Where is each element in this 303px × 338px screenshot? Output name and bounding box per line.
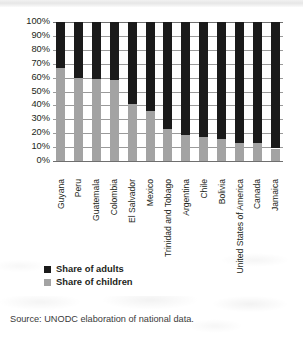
plot-area [53, 22, 283, 161]
y-axis-tick: 90% [31, 31, 50, 40]
bar-segment-share-of-children [146, 111, 155, 161]
bar-segment-share-of-adults [92, 22, 101, 79]
y-axis-tick: 0% [37, 156, 50, 165]
x-axis-category-label: Colombia [110, 179, 119, 257]
bar-segment-share-of-adults [146, 22, 155, 111]
x-axis-category-label-text: Guatemala [92, 179, 101, 221]
x-axis-category-label-text: Chile [199, 179, 208, 199]
bar-column [92, 22, 101, 161]
bar-column [217, 22, 226, 161]
bar-segment-share-of-adults [110, 22, 119, 80]
stacked-bar-chart-figure: 0%10%20%30%40%50%60%70%80%90%100% Guyana… [0, 0, 303, 338]
bar-segment-share-of-adults [56, 22, 65, 68]
x-axis-category-label-text: Bolivia [217, 179, 226, 204]
x-axis-category-label: Canada [253, 179, 262, 257]
chart-plot-wrapper: 0%10%20%30%40%50%60%70%80%90%100% [0, 22, 303, 177]
x-axis-category-label-text: Colombia [110, 179, 119, 215]
bar-segment-share-of-children [92, 79, 101, 161]
x-axis-category-label: United States of America [235, 179, 244, 257]
y-axis-tick-labels: 0%10%20%30%40%50%60%70%80%90%100% [16, 22, 50, 161]
bar-segment-share-of-adults [199, 22, 208, 137]
x-axis-category-label: Guyana [56, 179, 65, 257]
bar-segment-share-of-adults [271, 22, 280, 148]
y-axis-tick: 40% [31, 101, 50, 110]
x-axis-category-label: Guatemala [92, 179, 101, 257]
bar-segment-share-of-children [253, 143, 262, 161]
bar-column [253, 22, 262, 161]
x-axis-category-label-text: Argentina [182, 179, 191, 216]
x-axis-category-label: Bolivia [217, 179, 226, 257]
bar-segment-share-of-adults [235, 22, 244, 143]
x-axis-category-label-text: El Salvador [128, 179, 137, 223]
bar-column [74, 22, 83, 161]
y-axis-tick: 60% [31, 73, 50, 82]
y-axis-tick: 30% [31, 115, 50, 124]
bar-segment-share-of-children [199, 137, 208, 161]
x-axis-category-label-text: Guyana [56, 179, 65, 209]
bar-column [110, 22, 119, 161]
bar-column [235, 22, 244, 161]
bar-segment-share-of-adults [217, 22, 226, 139]
x-axis-category-label: Peru [74, 179, 83, 257]
x-axis-category-label: Chile [199, 179, 208, 257]
x-axis-category-label-text: Trinidad and Tobago [164, 179, 173, 257]
bar-segment-share-of-children [56, 68, 65, 161]
legend-color-swatch [44, 266, 51, 273]
gridline [53, 161, 283, 162]
legend-item: Share of children [44, 277, 224, 287]
y-axis-tick: 80% [31, 45, 50, 54]
bar-segment-share-of-children [74, 78, 83, 161]
legend-item-label: Share of children [56, 277, 133, 287]
bar-segment-share-of-children [163, 129, 172, 161]
bar-segment-share-of-children [110, 80, 119, 161]
bar-column [56, 22, 65, 161]
bar-segment-share-of-adults [181, 22, 190, 135]
bar-segment-share-of-adults [253, 22, 262, 143]
y-axis-tick: 100% [26, 17, 50, 26]
x-axis-category-label-text: Canada [253, 179, 262, 209]
bar-column [271, 22, 280, 161]
x-axis-category-label: Trinidad and Tobago [163, 179, 172, 257]
bar-segment-share-of-children [271, 149, 280, 162]
x-axis-category-label-text: Mexico [146, 179, 155, 206]
x-axis-category-label: El Salvador [128, 179, 137, 257]
bar-column [199, 22, 208, 161]
x-axis-category-label: Mexico [146, 179, 155, 257]
bar-column [146, 22, 155, 161]
x-axis-category-label: Argentina [181, 179, 190, 257]
legend-item-label: Share of adults [56, 264, 124, 274]
bar-segment-share-of-children [217, 139, 226, 161]
x-axis-category-label: Jamaica [271, 179, 280, 257]
y-axis-tick: 10% [31, 142, 50, 151]
x-axis-category-label-text: United States of America [235, 179, 244, 274]
x-axis-category-label-text: Peru [74, 179, 83, 197]
legend-color-swatch [44, 279, 51, 286]
y-axis-tick: 70% [31, 59, 50, 68]
source-note: Source: UNODC elaboration of national da… [10, 314, 194, 324]
bar-segment-share-of-children [128, 104, 137, 161]
chart-legend: Share of adultsShare of children [44, 264, 224, 290]
x-axis-category-labels: GuyanaPeruGuatemalaColombiaEl SalvadorMe… [53, 179, 283, 257]
y-axis-tick: 50% [31, 87, 50, 96]
bar-segment-share-of-children [181, 135, 190, 161]
bar-series-group [53, 22, 283, 161]
bar-column [128, 22, 137, 161]
bar-segment-share-of-children [235, 143, 244, 161]
legend-item: Share of adults [44, 264, 224, 274]
bar-segment-share-of-adults [74, 22, 83, 78]
bar-segment-share-of-adults [128, 22, 137, 104]
y-axis-tick: 20% [31, 129, 50, 138]
bar-segment-share-of-adults [163, 22, 172, 129]
bar-column [181, 22, 190, 161]
bar-column [163, 22, 172, 161]
x-axis-category-label-text: Jamaica [271, 179, 280, 211]
